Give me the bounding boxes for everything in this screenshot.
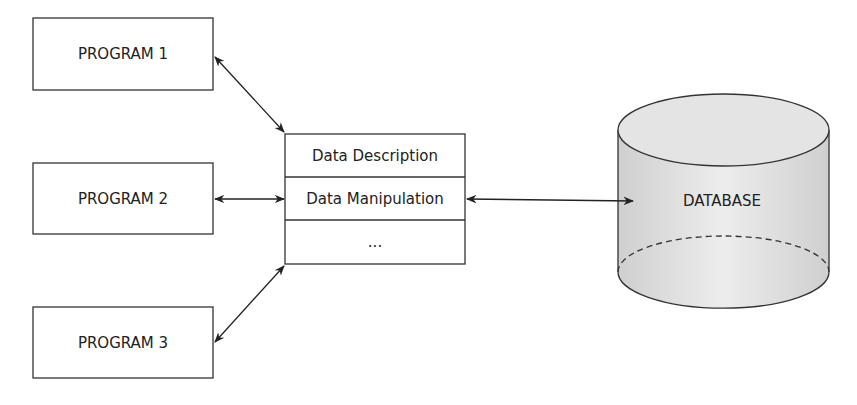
database-cylinder: DATABASE: [618, 94, 829, 308]
arrow-program1-dbms: [215, 57, 284, 132]
diagram-canvas: PROGRAM 1 PROGRAM 2 PROGRAM 3 Data Descr…: [0, 0, 857, 405]
database-label: DATABASE: [683, 192, 761, 210]
program-label: PROGRAM 1: [78, 45, 168, 63]
arrow-dbms-database: [467, 199, 633, 201]
dbms-box: Data Description Data Manipulation ...: [285, 134, 465, 264]
program-label: PROGRAM 3: [78, 334, 168, 352]
dbms-row-data-manipulation: Data Manipulation: [306, 190, 444, 208]
program-box-2: PROGRAM 2: [33, 163, 213, 234]
cylinder-top: [618, 94, 829, 166]
dbms-row-data-description: Data Description: [312, 147, 438, 165]
arrow-program3-dbms: [215, 266, 284, 342]
program-label: PROGRAM 2: [78, 190, 168, 208]
dbms-row-more: ...: [368, 233, 382, 251]
program-box-1: PROGRAM 1: [33, 18, 213, 90]
program-box-3: PROGRAM 3: [33, 307, 213, 378]
